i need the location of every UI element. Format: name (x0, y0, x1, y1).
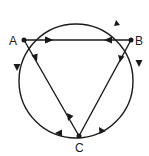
arrow-right-icon (45, 37, 53, 44)
node-c (77, 134, 82, 139)
graph-diagram: A B C (0, 0, 149, 156)
label-a: A (9, 34, 17, 48)
outer-circle (19, 24, 133, 138)
arrow-top-arc-icon (114, 20, 120, 26)
label-c: C (75, 141, 84, 155)
arrow-left-icon (104, 37, 112, 44)
label-b: B (135, 34, 143, 48)
arrow-bottom-right-arc-icon (99, 127, 106, 134)
edge-a-c (24, 40, 79, 136)
node-b (129, 38, 134, 43)
arrow-right-arc-icon (136, 60, 143, 67)
node-a (22, 38, 27, 43)
edge-b-c (79, 40, 131, 136)
